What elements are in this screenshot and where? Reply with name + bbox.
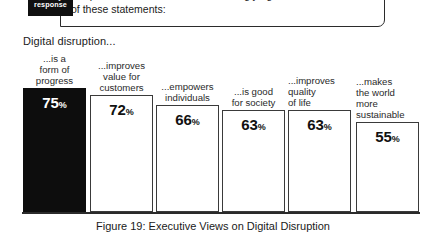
bar-item-2[interactable]: ...empowers individuals 66% — [156, 105, 219, 212]
bar-label-2: ...empowers individuals — [156, 81, 219, 105]
percent-sign-4: % — [324, 122, 332, 132]
chart-baseline-axis — [22, 212, 420, 214]
bar-value-1: 72% — [90, 101, 153, 118]
bar-value-number-3: 63 — [241, 116, 257, 133]
bar-label-1: ...improves value for customers — [90, 60, 153, 95]
bar-value-number-4: 63 — [307, 116, 323, 133]
percent-sign-2: % — [192, 117, 200, 127]
percent-sign-0: % — [59, 100, 67, 110]
bar-label-0: ...is a form of progress — [23, 53, 86, 88]
bar-chart-plot-area: ...is a form of progress 75% ...improves… — [0, 0, 426, 239]
bar-item-4[interactable]: ...improves quality of life 63% — [288, 110, 351, 212]
bar-value-3: 63% — [222, 116, 285, 133]
bar-item-0[interactable]: ...is a form of progress 75% — [23, 88, 86, 212]
bar-value-number-1: 72 — [109, 101, 125, 118]
bar-value-number-2: 66 — [175, 111, 191, 128]
percent-sign-1: % — [126, 107, 134, 117]
bar-item-3[interactable]: ...is good for society 63% — [222, 110, 285, 212]
figure-caption: Figure 19: Executive Views on Digital Di… — [0, 220, 426, 232]
bar-label-5: ...makes the world more sustainable — [356, 76, 419, 122]
bar-value-0: 75% — [23, 94, 86, 111]
bar-value-4: 63% — [288, 116, 351, 133]
bar-label-4: ...improves quality of life — [288, 75, 351, 110]
bar-value-number-0: 75 — [42, 94, 58, 111]
bar-value-number-5: 55 — [375, 128, 391, 145]
bar-label-3: ...is good for society — [222, 86, 285, 110]
bar-item-5[interactable]: ...makes the world more sustainable 55% — [356, 122, 419, 212]
percent-sign-5: % — [392, 134, 400, 144]
percent-sign-3: % — [258, 122, 266, 132]
bar-value-5: 55% — [356, 128, 419, 145]
bar-item-1[interactable]: ...improves value for customers 72% — [90, 95, 153, 212]
bar-value-2: 66% — [156, 111, 219, 128]
